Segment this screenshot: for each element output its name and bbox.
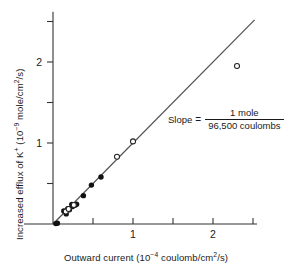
y-axis-exponent: −9 [13, 123, 20, 131]
data-point-filled [55, 220, 60, 225]
data-point-open [131, 139, 136, 144]
x-axis-title-tail: coulomb/cm [158, 252, 213, 263]
x-axis-title-end: /s) [217, 252, 228, 263]
slope-fraction: 1 mole 96,500 coulombs [205, 108, 283, 131]
scatter-plot: 1212 [0, 0, 292, 270]
data-point-open [66, 207, 71, 212]
y-axis-charge: + [13, 147, 20, 151]
data-point-filled [98, 174, 103, 179]
y-axis-title: Increased efflux of K+ (10−9 mole/cm2/s) [14, 10, 28, 240]
slope-denominator: 96,500 coulombs [205, 120, 283, 131]
slope-annotation: Slope = 1 mole 96,500 coulombs [168, 108, 284, 131]
y-tick-label: 1 [36, 137, 42, 149]
x-axis-title-main: Outward current (10 [64, 252, 150, 263]
y-axis-exponent-two: 2 [13, 79, 20, 83]
y-axis-title-main: Increased efflux of K [14, 151, 25, 240]
slope-label: Slope [168, 114, 192, 125]
data-point-open [235, 64, 240, 69]
y-axis-title-end: /s) [14, 69, 25, 80]
y-tick-label: 2 [36, 56, 42, 68]
data-point-open [71, 202, 76, 207]
y-axis-title-tail: mole/cm [14, 83, 25, 122]
slope-equals-sign: = [195, 114, 201, 125]
data-point-filled [89, 182, 94, 187]
y-axis-title-mid: (10 [14, 131, 25, 148]
x-tick-label: 2 [210, 228, 216, 240]
slope-numerator: 1 mole [227, 108, 262, 119]
x-axis-title: Outward current (10−4 coulomb/cm2/s) [0, 252, 292, 263]
data-point-open [115, 154, 120, 159]
figure-panel: 1212 Increased efflux of K+ (10−9 mole/c… [0, 0, 292, 270]
x-tick-label: 1 [130, 228, 136, 240]
data-point-filled [81, 193, 86, 198]
